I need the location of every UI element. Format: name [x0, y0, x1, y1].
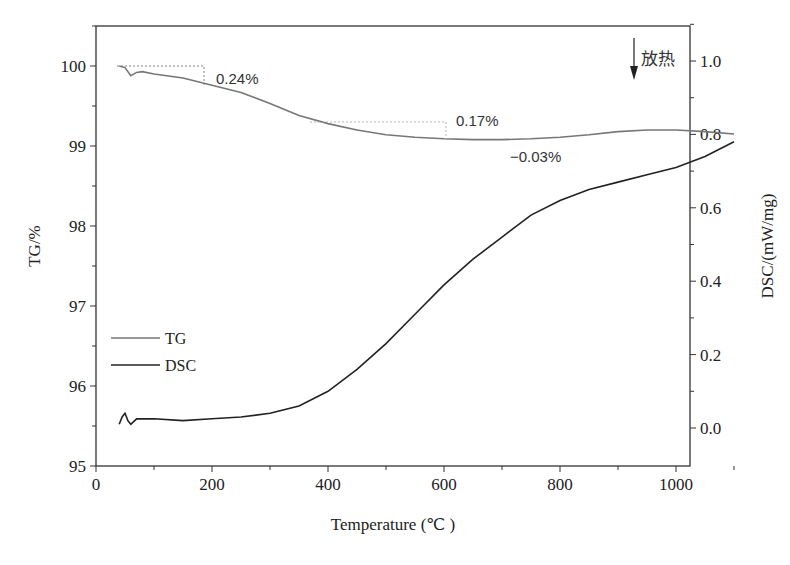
right-y-tick-label: 0.2 [700, 346, 721, 365]
x-tick-label: 600 [431, 475, 457, 494]
left-y-tick-label: 98 [69, 217, 86, 236]
x-tick-label: 200 [199, 475, 225, 494]
right-y-tick-label: 0.6 [700, 199, 721, 218]
annotation-0-24: 0.24% [117, 66, 259, 87]
left-y-axis-title: TG/% [25, 225, 44, 267]
svg-text:0.24%: 0.24% [216, 70, 259, 87]
left-y-tick-label: 99 [69, 137, 86, 156]
tg-dsc-chart: 02004006008001000 9596979899100 0.00.20.… [0, 0, 790, 565]
right-y-tick-label: 0.0 [700, 419, 721, 438]
exothermic-indicator: 放热 [630, 38, 675, 80]
x-tick-label: 800 [547, 475, 573, 494]
x-axis: 02004006008001000 [92, 466, 734, 494]
arrowhead-icon [630, 66, 638, 80]
annotation-0-17: 0.17% [310, 112, 499, 136]
left-y-tick-label: 95 [69, 457, 86, 476]
right-y-tick-label: 1.0 [700, 52, 721, 71]
left-y-tick-label: 96 [69, 377, 86, 396]
legend-dsc-label: DSC [165, 357, 196, 374]
left-y-axis: 9596979899100 [61, 26, 97, 476]
svg-text:放热: 放热 [641, 49, 675, 69]
x-axis-title: Temperature (℃ ) [331, 515, 455, 534]
x-tick-label: 400 [315, 475, 341, 494]
dsc-series-line [119, 142, 734, 425]
x-tick-label: 0 [92, 475, 101, 494]
svg-text:0.17%: 0.17% [456, 112, 499, 129]
right-y-tick-label: 0.4 [700, 272, 722, 291]
annotation-minus-0-03: −0.03% [510, 148, 561, 165]
left-y-tick-label: 97 [69, 297, 87, 316]
legend: TG DSC [111, 330, 196, 374]
plot-frame [96, 26, 690, 466]
tg-series-line [119, 66, 734, 140]
x-tick-label: 1000 [659, 475, 693, 494]
right-y-axis-title: DSC/(mW/mg) [758, 194, 777, 299]
right-y-tick-label: 0.8 [700, 125, 721, 144]
right-y-axis: 0.00.20.40.60.81.0 [690, 24, 722, 438]
left-y-tick-label: 100 [61, 57, 87, 76]
legend-tg-label: TG [165, 330, 187, 347]
